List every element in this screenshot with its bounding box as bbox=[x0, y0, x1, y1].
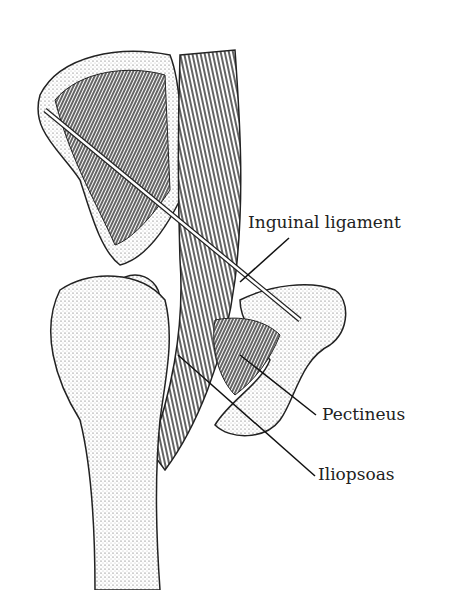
label-pectineus: Pectineus bbox=[322, 404, 405, 424]
label-iliopsoas: Iliopsoas bbox=[318, 464, 395, 484]
leader-inguinal bbox=[240, 238, 289, 282]
label-inguinal-ligament: Inguinal ligament bbox=[248, 212, 401, 232]
femur bbox=[51, 276, 170, 590]
hip-illustration bbox=[0, 0, 452, 590]
diagram-canvas: Inguinal ligament Pectineus Iliopsoas bbox=[0, 0, 452, 590]
